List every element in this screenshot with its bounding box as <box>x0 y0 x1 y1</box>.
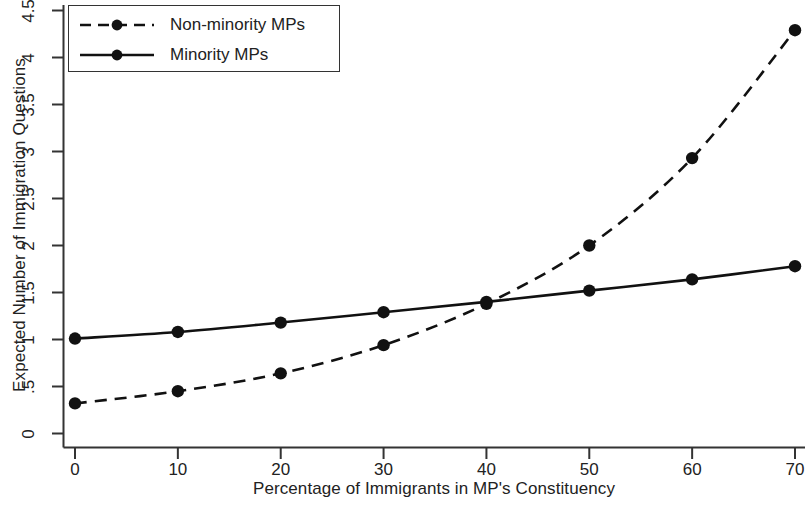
y-tick-label: 3 <box>19 132 39 172</box>
data-point-marker <box>686 273 698 285</box>
plot-area <box>0 0 805 506</box>
x-axis-tick-marks <box>75 448 795 460</box>
series-non-minority-mps <box>69 24 801 410</box>
y-tick-label: 2.5 <box>19 179 39 219</box>
data-point-marker <box>275 367 287 379</box>
legend: Non-minority MPs Minority MPs <box>68 5 340 72</box>
y-tick-label: .5 <box>19 367 39 407</box>
y-tick-label: 0 <box>19 414 39 454</box>
data-point-marker <box>789 24 801 36</box>
legend-label-non-minority: Non-minority MPs <box>170 15 305 35</box>
x-tick-label: 30 <box>364 460 404 480</box>
data-point-marker <box>480 296 492 308</box>
x-tick-label: 70 <box>775 460 805 480</box>
x-tick-label: 60 <box>672 460 712 480</box>
y-tick-label: 1.5 <box>19 273 39 313</box>
data-point-marker <box>377 339 389 351</box>
data-point-marker <box>172 326 184 338</box>
data-point-marker <box>583 284 595 296</box>
data-point-marker <box>789 260 801 272</box>
data-point-marker <box>583 239 595 251</box>
dashed-line-marker-swatch <box>78 15 156 35</box>
y-tick-label: 2 <box>19 226 39 266</box>
series-minority-mps <box>69 260 801 345</box>
legend-entry-non-minority: Non-minority MPs <box>69 10 339 40</box>
x-tick-label: 40 <box>466 460 506 480</box>
x-tick-label: 10 <box>158 460 198 480</box>
data-point-marker <box>172 385 184 397</box>
data-point-marker <box>69 397 81 409</box>
x-tick-label: 50 <box>569 460 609 480</box>
y-tick-label: 1 <box>19 320 39 360</box>
x-axis-title: Percentage of Immigrants in MP's Constit… <box>63 479 805 499</box>
data-point-marker <box>686 152 698 164</box>
y-tick-label: 3.5 <box>19 85 39 125</box>
data-point-marker <box>275 316 287 328</box>
legend-label-minority: Minority MPs <box>170 45 268 65</box>
y-axis-tick-marks <box>52 11 64 434</box>
data-series-layer <box>69 24 801 410</box>
chart-figure: Expected Number of Immigration Questions… <box>0 0 805 506</box>
legend-entry-minority: Minority MPs <box>69 40 339 70</box>
y-tick-label: 4 <box>19 38 39 78</box>
data-point-marker <box>69 332 81 344</box>
x-tick-label: 20 <box>261 460 301 480</box>
data-point-marker <box>377 306 389 318</box>
solid-line-marker-swatch <box>78 45 156 65</box>
x-tick-label: 0 <box>55 460 95 480</box>
y-tick-label: 4.5 <box>19 0 39 31</box>
series-line <box>75 30 795 403</box>
